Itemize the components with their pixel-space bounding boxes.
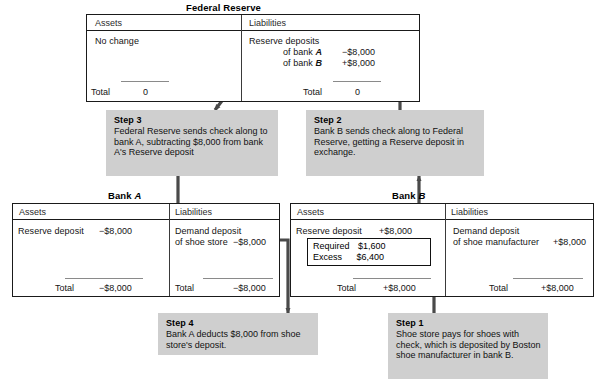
fed-caption-text: Federal Reserve — [186, 2, 261, 13]
fed-liab-sub-1-label: of bank — [283, 47, 313, 57]
fed-assets-total-rule — [121, 81, 169, 82]
bank-a-assets-total-rule — [65, 278, 143, 279]
callout-step1[interactable]: Step 1 Shoe store pays for shoes with ch… — [388, 313, 548, 379]
bank-b-excess-label: Excess — [313, 252, 342, 262]
bank-a-assets-total-label: Total — [55, 283, 74, 293]
callout-step2[interactable]: Step 2 Bank B sends check along to Feder… — [306, 110, 484, 176]
bank-a-liab-entry-line1: Demand deposit — [175, 226, 241, 236]
fed-liab-sub-1-bank: A — [315, 47, 322, 57]
fed-assets-total-value: 0 — [143, 87, 148, 97]
bank-b-assets-entry-value: +$8,000 — [379, 226, 412, 236]
bank-b-liab-total-label: Total — [489, 283, 508, 293]
fed-liabilities-header: Liabilities — [249, 18, 286, 28]
federal-reserve-t-account: Assets Liabilities No change Reserve dep… — [86, 14, 420, 102]
bank-b-caption-prefix: Bank — [392, 190, 416, 201]
bank-b-liab-total-value: +$8,000 — [541, 283, 574, 293]
bank-a-caption-prefix: Bank — [108, 190, 132, 201]
bank-b-liab-entry-line1: Demand deposit — [453, 226, 519, 236]
fed-liab-total-value: 0 — [355, 87, 360, 97]
bank-b-column-divider — [445, 204, 446, 296]
bank-b-reserve-split-box: Required $1,600 Excess $6,400 — [307, 238, 431, 266]
diagram-canvas: Federal Reserve Assets Liabilities No ch… — [0, 0, 604, 389]
bank-b-excess-value: $6,400 — [357, 252, 385, 262]
bank-b-t-account: Assets Liabilities Reserve deposit +$8,0… — [290, 203, 594, 297]
bank-a-liab-entry-line2: of shoe store — [175, 237, 228, 247]
step4-heading: Step 4 — [166, 318, 311, 328]
fed-column-divider — [241, 15, 242, 101]
bank-a-assets-header: Assets — [19, 207, 46, 217]
step3-heading: Step 3 — [114, 115, 271, 125]
bank-b-header-row — [291, 204, 593, 220]
bank-b-caption: Bank B — [392, 190, 425, 201]
bank-a-t-account: Assets Liabilities Reserve deposit −$8,0… — [12, 203, 280, 297]
step1-body: Shoe store pays for shoes with check, wh… — [396, 329, 541, 361]
bank-b-liab-entry-value: +$8,000 — [553, 237, 586, 247]
bank-b-assets-header: Assets — [297, 207, 324, 217]
callout-step3[interactable]: Step 3 Federal Reserve sends check along… — [106, 110, 278, 176]
bank-b-excess-row: Excess $6,400 — [313, 252, 425, 263]
step4-body: Bank A deducts $8,000 from shoe store's … — [166, 329, 311, 350]
bank-a-liab-total-label: Total — [175, 283, 194, 293]
bank-b-caption-bank: B — [418, 190, 425, 201]
bank-a-liabilities-header: Liabilities — [175, 207, 212, 217]
bank-b-required-row: Required $1,600 — [313, 241, 425, 252]
step3-body: Federal Reserve sends check along to ban… — [114, 126, 271, 158]
bank-a-assets-total-value: −$8,000 — [99, 283, 132, 293]
fed-assets-header: Assets — [95, 18, 122, 28]
fed-liab-sub-2: of bank B — [283, 58, 322, 68]
bank-a-assets-entry-value: −$8,000 — [99, 226, 132, 236]
fed-liab-sub-1: of bank A — [283, 47, 322, 57]
step2-heading: Step 2 — [314, 115, 477, 125]
bank-a-header-row — [13, 204, 279, 220]
bank-a-assets-entry-label: Reserve deposit — [18, 226, 84, 236]
bank-b-required-label: Required — [313, 241, 350, 251]
bank-b-required-value: $1,600 — [358, 241, 386, 251]
fed-liab-total-label: Total — [303, 87, 322, 97]
bank-b-assets-total-rule — [353, 278, 431, 279]
fed-liab-sub-2-bank: B — [315, 58, 322, 68]
bank-b-assets-total-value: +$8,000 — [383, 283, 416, 293]
fed-liab-total-rule — [333, 81, 381, 82]
bank-a-liab-total-rule — [203, 278, 273, 279]
callout-step4[interactable]: Step 4 Bank A deducts $8,000 from shoe s… — [158, 313, 318, 355]
bank-a-caption: Bank A — [108, 190, 141, 201]
fed-caption: Federal Reserve — [186, 2, 261, 13]
step1-heading: Step 1 — [396, 318, 541, 328]
bank-b-liab-total-rule — [513, 278, 583, 279]
fed-liabilities-entry: Reserve deposits — [249, 36, 319, 46]
fed-assets-entry: No change — [95, 36, 139, 46]
bank-a-caption-bank: A — [134, 190, 141, 201]
arrow-bank-a-to-step4 — [280, 240, 288, 313]
fed-liab-sub-2-label: of bank — [283, 58, 313, 68]
bank-a-liab-entry-value: −$8,000 — [233, 237, 266, 247]
bank-a-liab-total-value: −$8,000 — [233, 283, 266, 293]
fed-liab-sub-2-value: +$8,000 — [342, 58, 375, 68]
bank-a-column-divider — [169, 204, 170, 296]
bank-b-liab-entry-line2: of shoe manufacturer — [453, 237, 539, 247]
bank-b-assets-entry-label: Reserve deposit — [296, 226, 362, 236]
bank-b-liabilities-header: Liabilities — [451, 207, 488, 217]
step2-body: Bank B sends check along to Federal Rese… — [314, 126, 477, 158]
bank-b-assets-total-label: Total — [337, 283, 356, 293]
fed-liab-sub-1-value: −$8,000 — [342, 47, 375, 57]
fed-assets-total-label: Total — [91, 87, 110, 97]
